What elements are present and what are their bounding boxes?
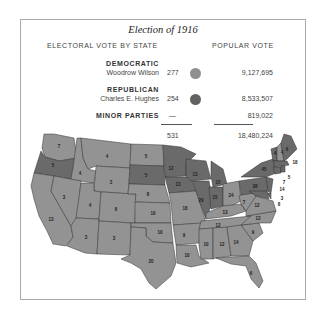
svg-text:13: 13 [48, 217, 54, 222]
svg-text:12: 12 [254, 203, 260, 208]
svg-text:15: 15 [212, 195, 218, 200]
map-frame: Election of 1916 ELECTORAL VOTE BY STATE… [20, 19, 306, 300]
svg-text:10: 10 [203, 242, 209, 247]
state-ny [241, 159, 276, 177]
state-me [281, 134, 297, 161]
svg-text:29: 29 [198, 198, 204, 203]
svg-text:12: 12 [219, 242, 225, 247]
svg-text:13: 13 [175, 182, 181, 187]
svg-text:10: 10 [184, 253, 190, 258]
svg-text:10: 10 [157, 230, 163, 235]
state-ar [173, 223, 201, 245]
svg-text:13: 13 [192, 172, 198, 177]
svg-text:15: 15 [215, 180, 221, 185]
svg-text:18: 18 [182, 206, 188, 211]
state-fl [216, 256, 263, 288]
svg-text:24: 24 [228, 193, 234, 198]
us-electoral-map: 7 5 13 4 3 4 3 4 3 6 3 5 5 8 10 10 20 12… [21, 20, 307, 301]
svg-text:14: 14 [279, 187, 285, 192]
svg-text:5: 5 [288, 175, 291, 180]
svg-text:12: 12 [215, 223, 221, 228]
svg-text:12: 12 [168, 166, 174, 171]
svg-text:3: 3 [281, 196, 284, 201]
svg-text:18: 18 [292, 160, 298, 165]
svg-text:10: 10 [150, 211, 156, 216]
svg-text:45: 45 [261, 167, 267, 172]
svg-text:12: 12 [255, 216, 261, 221]
state-co [99, 192, 136, 223]
svg-text:7: 7 [283, 180, 286, 185]
svg-text:8: 8 [278, 202, 281, 207]
state-wi [186, 159, 211, 181]
svg-text:14: 14 [233, 240, 239, 245]
svg-text:20: 20 [148, 259, 154, 264]
svg-text:13: 13 [222, 210, 228, 215]
svg-text:38: 38 [252, 184, 258, 189]
state-ri [281, 166, 285, 172]
